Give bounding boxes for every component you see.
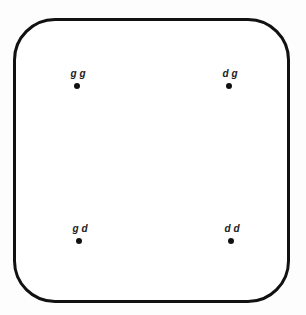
point-label: g d [67, 223, 93, 234]
dot-icon [228, 238, 234, 244]
point-label: g g [65, 68, 91, 79]
point-label: d g [217, 68, 243, 79]
dot-icon [74, 83, 80, 89]
dot-icon [76, 238, 82, 244]
point-label: d d [219, 223, 245, 234]
rounded-square-frame [13, 18, 290, 303]
dot-icon [226, 83, 232, 89]
